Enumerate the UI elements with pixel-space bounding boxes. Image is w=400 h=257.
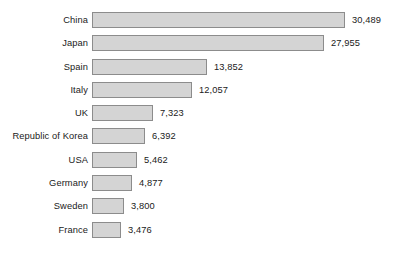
bar-row: Republic of Korea6,392 xyxy=(0,128,400,144)
bar-value-label: 13,852 xyxy=(214,59,243,75)
bar-track: 7,323 xyxy=(92,105,184,121)
bar-row: Sweden3,800 xyxy=(0,198,400,214)
bar-value-label: 5,462 xyxy=(144,152,168,168)
bar-row: Italy12,057 xyxy=(0,82,400,98)
bar-value-label: 4,877 xyxy=(139,175,163,191)
bar xyxy=(92,105,153,121)
category-label: Spain xyxy=(0,59,88,75)
bar-value-label: 27,955 xyxy=(331,35,360,51)
category-label: Italy xyxy=(0,82,88,98)
category-label: Japan xyxy=(0,35,88,51)
bar-row: France3,476 xyxy=(0,222,400,238)
bar xyxy=(92,35,324,51)
category-label: UK xyxy=(0,105,88,121)
plot-area: China30,489Japan27,955Spain13,852Italy12… xyxy=(0,12,400,245)
bar-row: Germany4,877 xyxy=(0,175,400,191)
category-label: Sweden xyxy=(0,198,88,214)
category-label: Republic of Korea xyxy=(0,128,88,144)
category-label: USA xyxy=(0,152,88,168)
bar xyxy=(92,152,137,168)
bar-row: UK7,323 xyxy=(0,105,400,121)
bar xyxy=(92,82,192,98)
bar-row: USA5,462 xyxy=(0,152,400,168)
bar-row: Japan27,955 xyxy=(0,35,400,51)
bar xyxy=(92,222,121,238)
bar-value-label: 30,489 xyxy=(352,12,381,28)
bar xyxy=(92,59,207,75)
bar xyxy=(92,175,132,191)
bar xyxy=(92,128,145,144)
bar-track: 6,392 xyxy=(92,128,176,144)
bar-track: 30,489 xyxy=(92,12,381,28)
bar-row: China30,489 xyxy=(0,12,400,28)
bar-value-label: 12,057 xyxy=(199,82,228,98)
bar-track: 4,877 xyxy=(92,175,163,191)
bar-track: 5,462 xyxy=(92,152,168,168)
bar-chart: China30,489Japan27,955Spain13,852Italy12… xyxy=(0,0,400,257)
category-label: France xyxy=(0,222,88,238)
bar-track: 27,955 xyxy=(92,35,360,51)
bar-value-label: 7,323 xyxy=(160,105,184,121)
bar xyxy=(92,198,124,214)
bar-row: Spain13,852 xyxy=(0,59,400,75)
bar-track: 3,476 xyxy=(92,222,152,238)
bar-track: 3,800 xyxy=(92,198,155,214)
category-label: Germany xyxy=(0,175,88,191)
category-label: China xyxy=(0,12,88,28)
bar-value-label: 3,476 xyxy=(128,222,152,238)
bar-value-label: 3,800 xyxy=(131,198,155,214)
bar-value-label: 6,392 xyxy=(152,128,176,144)
bar-track: 13,852 xyxy=(92,59,243,75)
bar-track: 12,057 xyxy=(92,82,228,98)
bar xyxy=(92,12,345,28)
